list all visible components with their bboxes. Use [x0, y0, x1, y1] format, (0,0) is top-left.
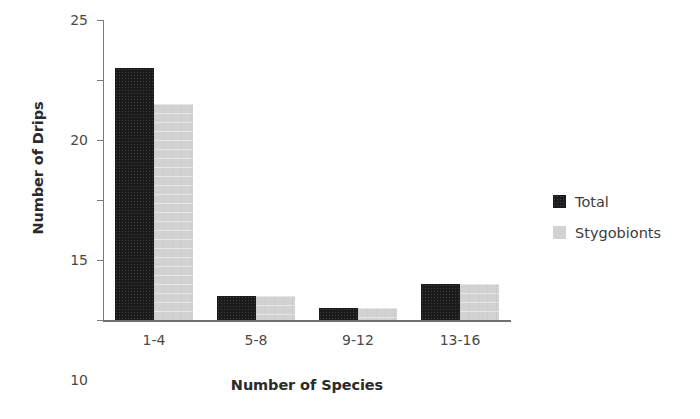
- y-tick-mark: 0: [97, 320, 103, 321]
- legend-label: Stygobionts: [575, 225, 661, 241]
- bar-stygobionts-13-16: [460, 284, 499, 320]
- bar-group: [217, 20, 295, 320]
- legend-item-total: Total: [553, 186, 693, 217]
- x-tick-label: 13-16: [440, 332, 481, 348]
- x-tick-label: 9-12: [342, 332, 374, 348]
- bar-group: [115, 20, 193, 320]
- y-tick-mark: 15: [97, 140, 103, 141]
- bar-stygobionts-9-12: [358, 308, 397, 320]
- bar-chart-figure: Number of Drips Number of Species 051015…: [0, 0, 700, 419]
- y-tick-mark: 10: [97, 200, 103, 201]
- y-axis-line: [103, 20, 104, 321]
- x-axis-line: [103, 320, 511, 322]
- bar-stygobionts-5-8: [256, 296, 295, 320]
- legend-label: Total: [575, 194, 609, 210]
- x-axis-title: Number of Species: [103, 377, 511, 393]
- x-tick-label: 5-8: [245, 332, 268, 348]
- legend-item-stygobionts: Stygobionts: [553, 217, 693, 248]
- y-tick-label: 25: [70, 12, 88, 28]
- bar-stygobionts-1-4: [154, 104, 193, 320]
- chart-legend: TotalStygobionts: [553, 186, 693, 248]
- bar-total-9-12: [319, 308, 358, 320]
- bar-group: [421, 20, 499, 320]
- y-tick-mark: 25: [97, 20, 103, 21]
- bar-total-1-4: [115, 68, 154, 320]
- y-tick-mark: 5: [97, 260, 103, 261]
- y-tick-mark: 20: [97, 80, 103, 81]
- y-axis-title: Number of Drips: [30, 68, 46, 268]
- y-tick-label: 20: [70, 132, 88, 148]
- bar-group: [319, 20, 397, 320]
- legend-swatch-icon: [553, 195, 566, 208]
- x-tick-label: 1-4: [143, 332, 166, 348]
- bar-total-5-8: [217, 296, 256, 320]
- y-tick-label: 15: [70, 252, 88, 268]
- plot-area: 0510152025 1-45-89-1213-16: [103, 20, 511, 320]
- y-tick-label: 10: [70, 372, 88, 388]
- legend-swatch-icon: [553, 226, 566, 239]
- bar-total-13-16: [421, 284, 460, 320]
